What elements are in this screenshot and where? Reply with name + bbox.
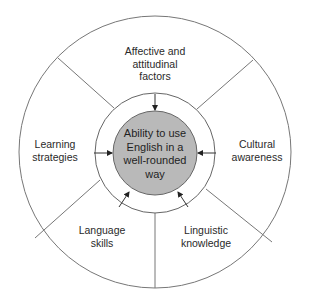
label-line: Language bbox=[79, 224, 126, 237]
label-language-skills: Language skills bbox=[79, 224, 126, 249]
label-line: Affective and bbox=[125, 45, 186, 58]
label-line: Learning bbox=[32, 138, 78, 151]
label-linguistic-knowledge: Linguistic knowledge bbox=[181, 224, 231, 249]
label-line: Ability to use bbox=[124, 127, 187, 141]
label-line: attitudinal bbox=[125, 58, 186, 71]
label-line: Cultural bbox=[232, 138, 283, 151]
label-cultural-awareness: Cultural awareness bbox=[232, 138, 283, 163]
label-line: strategies bbox=[32, 150, 78, 163]
label-line: knowledge bbox=[181, 236, 231, 249]
label-line: awareness bbox=[232, 150, 283, 163]
label-line: factors bbox=[125, 70, 186, 83]
label-center-goal: Ability to use English in a well-rounded… bbox=[124, 127, 187, 181]
label-affective-attitudinal: Affective and attitudinal factors bbox=[125, 45, 186, 83]
label-line: English in a bbox=[124, 141, 187, 155]
label-line: well-rounded bbox=[124, 154, 187, 168]
label-line: way bbox=[124, 168, 187, 182]
label-learning-strategies: Learning strategies bbox=[32, 138, 78, 163]
label-line: Linguistic bbox=[181, 224, 231, 237]
label-line: skills bbox=[79, 236, 126, 249]
